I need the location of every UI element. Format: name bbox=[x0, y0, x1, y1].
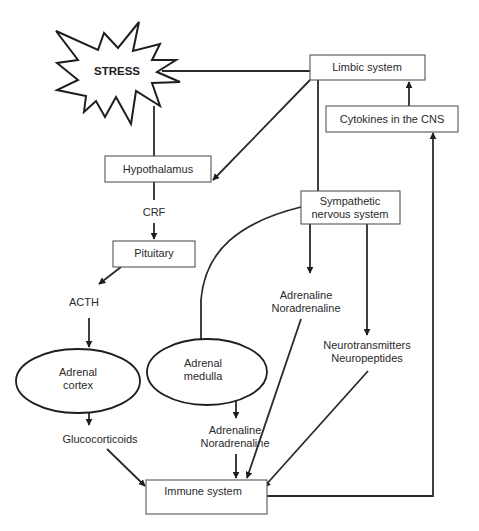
hypothalamus-node: Hypothalamus bbox=[105, 156, 211, 182]
edge-glucocorticoids-immune bbox=[107, 449, 145, 486]
stress-node: STRESS bbox=[56, 22, 180, 124]
cytokines-label: Cytokines in the CNS bbox=[340, 113, 445, 125]
crf-label: CRF bbox=[143, 206, 166, 218]
immune-system-label: Immune system bbox=[164, 485, 242, 497]
limbic-system-node: Limbic system bbox=[310, 55, 425, 80]
edge-neuro-immune bbox=[264, 371, 368, 487]
edge-sympathetic-medulla bbox=[201, 207, 301, 339]
edge-immune-cytokines bbox=[267, 133, 433, 496]
acth-label: ACTH bbox=[69, 296, 99, 308]
adrenal-medulla-line1: Adrenal bbox=[184, 357, 222, 369]
immune-system-node: Immune system bbox=[146, 480, 267, 514]
edge-limbic-hypothalamus bbox=[213, 80, 310, 180]
adrenal-cortex-line2: cortex bbox=[63, 379, 93, 391]
cytokines-node: Cytokines in the CNS bbox=[326, 106, 458, 132]
adrenal-medulla-node: Adrenal medulla bbox=[147, 339, 267, 405]
sympathetic-node: Sympathetic nervous system bbox=[301, 191, 400, 224]
sympathetic-label-line1: Sympathetic bbox=[320, 195, 381, 207]
medulla-adrenaline-line2: Noradrenaline bbox=[200, 437, 269, 449]
pituitary-node: Pituitary bbox=[113, 241, 195, 267]
neuro-node: Neurotransmitters Neuropeptides bbox=[323, 339, 411, 364]
sns-adrenaline-line2: Noradrenaline bbox=[271, 302, 340, 314]
sns-adrenaline-node: Adrenaline Noradrenaline bbox=[271, 289, 340, 314]
medulla-adrenaline-line1: Adrenaline bbox=[209, 424, 262, 436]
sns-adrenaline-line1: Adrenaline bbox=[280, 289, 333, 301]
adrenal-medulla-line2: medulla bbox=[184, 370, 223, 382]
edge-pituitary-acth bbox=[99, 267, 121, 284]
adrenal-cortex-line1: Adrenal bbox=[59, 366, 97, 378]
sympathetic-label-line2: nervous system bbox=[311, 208, 388, 220]
neuro-line2: Neuropeptides bbox=[331, 352, 403, 364]
glucocorticoids-label: Glucocorticoids bbox=[62, 433, 138, 445]
limbic-system-label: Limbic system bbox=[332, 61, 402, 73]
neuro-line1: Neurotransmitters bbox=[323, 339, 411, 351]
stress-label: STRESS bbox=[94, 65, 140, 77]
hypothalamus-label: Hypothalamus bbox=[123, 163, 194, 175]
stress-immune-diagram: STRESS Limbic system Cytokines in the CN… bbox=[0, 0, 479, 531]
adrenal-cortex-node: Adrenal cortex bbox=[16, 349, 140, 413]
medulla-adrenaline-node: Adrenaline Noradrenaline bbox=[200, 424, 269, 449]
pituitary-label: Pituitary bbox=[134, 247, 174, 259]
